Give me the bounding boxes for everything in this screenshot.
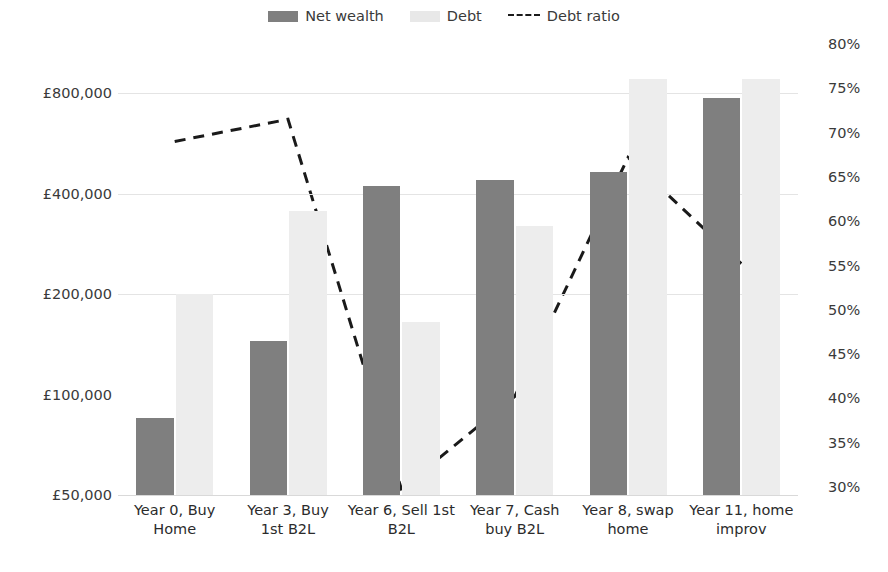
y-right-tick-label: 70% <box>828 125 860 141</box>
x-axis-category-line: Year 6, Sell 1st <box>345 501 458 520</box>
y-left-tick-label: £100,000 <box>8 387 112 403</box>
legend-label-debt-ratio: Debt ratio <box>547 8 620 24</box>
x-axis-category-label: Year 11, homeimprov <box>685 501 798 549</box>
x-axis-category-label: Year 7, Cashbuy B2L <box>458 501 571 549</box>
y-right-tick-label: 60% <box>828 213 860 229</box>
legend-label-debt: Debt <box>447 8 482 24</box>
y-right-tick-label: 55% <box>828 258 860 274</box>
y-right-tick-label: 45% <box>828 346 860 362</box>
gridline <box>118 194 798 195</box>
x-axis-category-line: Year 11, home <box>685 501 798 520</box>
y-left-tick-label: £50,000 <box>8 487 112 503</box>
y-right-tick-label: 35% <box>828 435 860 451</box>
y-left-tick-label: £800,000 <box>8 85 112 101</box>
x-axis-category-line: Home <box>118 520 231 539</box>
legend-label-net-wealth: Net wealth <box>305 8 384 24</box>
dashed-line-icon <box>508 14 540 16</box>
x-axis-category-label: Year 8, swaphome <box>571 501 684 549</box>
figure-caption <box>0 558 888 572</box>
y-right-tick-label: 40% <box>828 390 860 406</box>
legend-item-debt: Debt <box>410 8 482 24</box>
bar-debt <box>629 79 667 495</box>
net-wealth-swatch-icon <box>268 11 298 22</box>
y-right-tick-label: 80% <box>828 36 860 52</box>
y-right-tick-label: 50% <box>828 302 860 318</box>
debt-swatch-icon <box>410 11 440 22</box>
debt-ratio-line-layer <box>118 44 798 495</box>
x-axis-category-line: improv <box>685 520 798 539</box>
bar-net-wealth <box>476 180 514 495</box>
bar-debt <box>176 294 214 495</box>
axis-baseline <box>118 495 798 496</box>
x-axis-category-label: Year 0, BuyHome <box>118 501 231 549</box>
bar-debt <box>289 211 327 495</box>
gridline <box>118 294 798 295</box>
legend-item-net-wealth: Net wealth <box>268 8 384 24</box>
x-axis-category-line: Year 7, Cash <box>458 501 571 520</box>
x-axis-category-line: Year 8, swap <box>571 501 684 520</box>
legend-item-debt-ratio: Debt ratio <box>508 8 620 24</box>
x-axis-categories: Year 0, BuyHomeYear 3, Buy1st B2LYear 6,… <box>118 501 798 549</box>
x-axis-category-line: Year 0, Buy <box>118 501 231 520</box>
x-axis-category-line: Year 3, Buy <box>231 501 344 520</box>
x-axis-category-label: Year 6, Sell 1stB2L <box>345 501 458 549</box>
bar-debt <box>742 79 780 495</box>
y-right-tick-label: 75% <box>828 80 860 96</box>
x-axis-category-line: home <box>571 520 684 539</box>
y-left-tick-label: £200,000 <box>8 286 112 302</box>
y-axis-left: £50,000£100,000£200,000£400,000£800,000 <box>0 0 112 572</box>
bar-net-wealth <box>590 172 628 495</box>
plot-area <box>118 44 798 495</box>
x-axis-category-label: Year 3, Buy1st B2L <box>231 501 344 549</box>
bar-net-wealth <box>136 418 174 495</box>
bar-net-wealth <box>363 186 401 495</box>
bar-debt <box>516 226 554 495</box>
x-axis-category-line: 1st B2L <box>231 520 344 539</box>
bar-net-wealth <box>250 341 288 495</box>
y-right-tick-label: 65% <box>828 169 860 185</box>
gridline <box>118 93 798 94</box>
y-right-tick-label: 30% <box>828 479 860 495</box>
x-axis-category-line: B2L <box>345 520 458 539</box>
bar-net-wealth <box>703 98 741 495</box>
bar-debt <box>402 322 440 495</box>
y-left-tick-label: £400,000 <box>8 186 112 202</box>
y-axis-right: 30%35%40%45%50%55%60%65%70%75%80% <box>806 0 888 572</box>
x-axis-category-line: buy B2L <box>458 520 571 539</box>
chart-legend: Net wealth Debt Debt ratio <box>0 4 888 28</box>
